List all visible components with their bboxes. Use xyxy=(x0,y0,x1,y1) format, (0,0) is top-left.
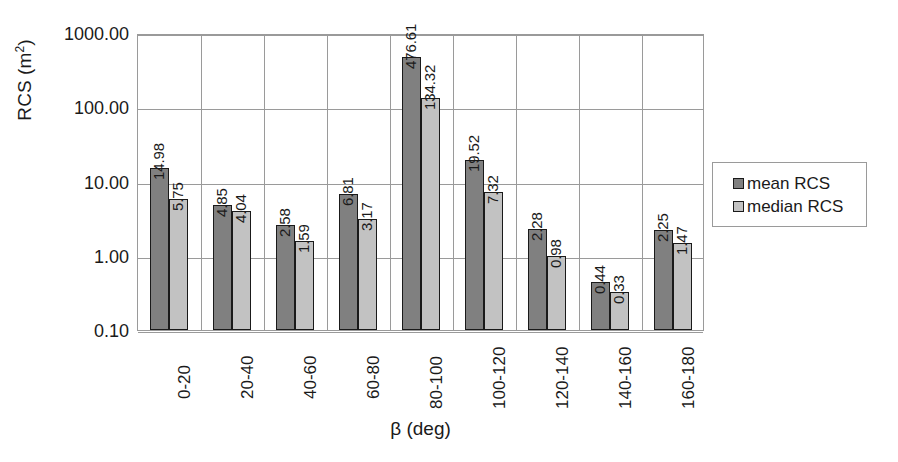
bar-median[interactable] xyxy=(484,192,503,330)
y-axis-tick-label: 100.00 xyxy=(19,99,129,117)
bar-group: 2.280.98 xyxy=(516,35,579,330)
bar-value-label: 4.85 xyxy=(214,188,229,217)
bar-mean[interactable] xyxy=(528,229,547,330)
x-axis-tick-label: 60-80 xyxy=(365,356,382,399)
x-axis-tick-label: 0-20 xyxy=(176,365,193,399)
bar-median[interactable] xyxy=(295,241,314,330)
bar-value-label: 2.25 xyxy=(655,213,670,242)
bar-median[interactable] xyxy=(232,211,251,330)
bar-value-label: 0.44 xyxy=(592,265,607,294)
bar-value-label: 4.04 xyxy=(233,194,248,223)
bar-median[interactable] xyxy=(169,199,188,330)
bar-group: 6.813.17 xyxy=(327,35,390,330)
bar-value-label: 5.75 xyxy=(170,183,185,212)
bar-value-label: 0.33 xyxy=(611,275,626,304)
bar-value-label: 7.32 xyxy=(485,175,500,204)
bar-mean[interactable] xyxy=(654,230,673,330)
x-axis-tick-label: 160-180 xyxy=(680,347,697,409)
bar-value-label: 1.59 xyxy=(296,224,311,253)
y-axis-tick-label: 10.00 xyxy=(19,174,129,192)
x-axis-tick-label: 80-100 xyxy=(428,356,445,409)
bar-value-label: 19.52 xyxy=(466,135,481,172)
bar-value-label: 0.98 xyxy=(548,240,563,269)
bar-median[interactable] xyxy=(673,243,692,330)
x-axis-tick-label: 20-40 xyxy=(239,356,256,399)
legend-entry[interactable]: mean RCS xyxy=(733,172,866,195)
bar-mean[interactable] xyxy=(402,57,421,330)
bar-group: 19.527.32 xyxy=(453,35,516,330)
x-axis-tick-labels: 0-2020-4040-6060-8080-100100-120120-1401… xyxy=(137,331,704,431)
bar-value-label: 3.17 xyxy=(359,202,374,231)
plot-area: 14.985.754.854.042.581.596.813.17476.611… xyxy=(137,34,704,331)
bar-mean[interactable] xyxy=(339,194,358,330)
bar-group: 4.854.04 xyxy=(201,35,264,330)
x-axis-tick-label: 40-60 xyxy=(302,356,319,399)
chart-container: RCS (m2) 1000.00100.0010.001.000.10 14.9… xyxy=(0,0,898,462)
legend-entry[interactable]: median RCS xyxy=(733,195,866,218)
y-axis-tick-label: 0.10 xyxy=(19,322,129,340)
legend-swatch-icon xyxy=(733,178,744,189)
bar-value-label: 1.47 xyxy=(674,227,689,256)
bar-value-label: 14.98 xyxy=(151,143,166,180)
x-axis-tick-label: 140-160 xyxy=(617,347,634,409)
bar-group: 0.440.33 xyxy=(579,35,642,330)
legend: mean RCSmedian RCS xyxy=(712,162,867,227)
bar-group: 14.985.75 xyxy=(138,35,201,330)
x-axis-tick-label: 100-120 xyxy=(491,347,508,409)
x-axis-title: β (deg) xyxy=(137,418,704,440)
bar-value-label: 2.58 xyxy=(277,208,292,237)
legend-label: mean RCS xyxy=(747,174,830,194)
bar-value-label: 476.61 xyxy=(403,24,418,69)
y-axis-tick-label: 1.00 xyxy=(19,248,129,266)
legend-swatch-icon xyxy=(733,201,744,212)
bar-value-label: 134.32 xyxy=(422,64,437,109)
bar-mean[interactable] xyxy=(150,168,169,330)
legend-label: median RCS xyxy=(747,197,843,217)
y-axis-tick-label: 1000.00 xyxy=(19,25,129,43)
bar-mean[interactable] xyxy=(465,160,484,330)
bar-median[interactable] xyxy=(421,98,440,330)
x-axis-tick-label: 120-140 xyxy=(554,347,571,409)
y-axis-tick-labels: 1000.00100.0010.001.000.10 xyxy=(17,0,129,462)
bar-value-label: 6.81 xyxy=(340,177,355,206)
bar-group: 476.61134.32 xyxy=(390,35,453,330)
bar-value-label: 2.28 xyxy=(529,212,544,241)
bar-mean[interactable] xyxy=(276,225,295,330)
bar-group: 2.251.47 xyxy=(642,35,705,330)
bar-mean[interactable] xyxy=(213,205,232,330)
bar-group: 2.581.59 xyxy=(264,35,327,330)
bar-median[interactable] xyxy=(358,219,377,330)
